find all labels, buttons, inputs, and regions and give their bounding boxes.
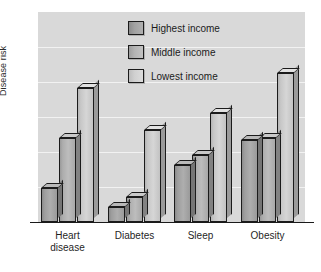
- legend-item-label: Middle income: [151, 47, 215, 58]
- bar-chart: Disease risk Heart diseaseDiabetesSleepO…: [0, 0, 321, 272]
- legend-swatch-icon: [128, 45, 144, 59]
- x-axis-label: Obesity: [229, 230, 306, 242]
- bar: [174, 165, 191, 222]
- bar-front-face: [108, 207, 125, 222]
- bar-front-face: [174, 165, 191, 222]
- legend-swatch-icon: [128, 21, 144, 35]
- legend-item-lowest-income[interactable]: Lowest income: [128, 66, 220, 86]
- bar-side-face: [191, 157, 196, 218]
- bar-front-face: [41, 188, 58, 222]
- y-axis-title: Disease risk: [0, 0, 8, 96]
- bar-front-face: [241, 140, 258, 222]
- x-axis-line: [30, 222, 314, 223]
- bar: [41, 188, 58, 222]
- x-axis-label: Heart disease: [29, 230, 106, 254]
- bar-side-face: [276, 130, 281, 218]
- legend-swatch-icon: [128, 69, 144, 83]
- x-axis-label: Sleep: [162, 230, 239, 242]
- bar-side-face: [76, 130, 81, 218]
- legend-item-label: Lowest income: [151, 71, 218, 82]
- bar-side-face: [227, 105, 232, 218]
- bar-side-face: [294, 65, 299, 218]
- legend: Highest income Middle income Lowest inco…: [128, 18, 220, 90]
- legend-item-highest-income[interactable]: Highest income: [128, 18, 220, 38]
- legend-item-middle-income[interactable]: Middle income: [128, 42, 220, 62]
- legend-item-label: Highest income: [151, 23, 220, 34]
- bar-side-face: [258, 132, 263, 218]
- bar-side-face: [161, 122, 166, 218]
- bar-side-face: [209, 147, 214, 218]
- bar: [241, 140, 258, 222]
- bar-side-face: [94, 80, 99, 218]
- bar: [108, 207, 125, 222]
